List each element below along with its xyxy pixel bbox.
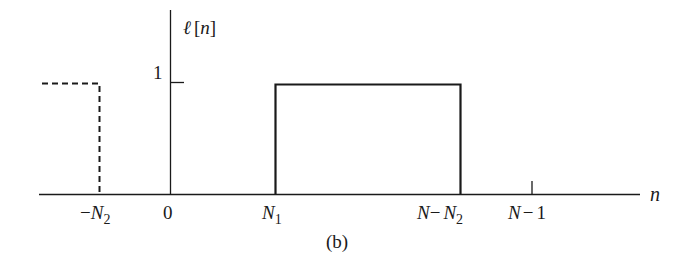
figure-caption: (b) bbox=[326, 231, 348, 253]
solid-window bbox=[276, 85, 461, 195]
dashed-window-replica bbox=[42, 84, 100, 195]
x-axis-label: n bbox=[650, 183, 660, 205]
y-axis-label: ℓ[n] bbox=[183, 17, 216, 38]
x-tick-label-neg-n2: −N2 bbox=[80, 202, 110, 227]
x-tick-label-n1: N1 bbox=[261, 202, 282, 227]
x-tick-label-zero: 0 bbox=[163, 202, 173, 223]
y-tick-label: 1 bbox=[153, 62, 163, 83]
x-tick-label-n-minus-n2: N−N2 bbox=[416, 202, 463, 227]
window-function-figure: ℓ[n] 1 n −N2 0 N1 N−N2 N−1 (b) bbox=[0, 0, 687, 278]
x-tick-label-n-minus-1: N−1 bbox=[507, 202, 546, 223]
